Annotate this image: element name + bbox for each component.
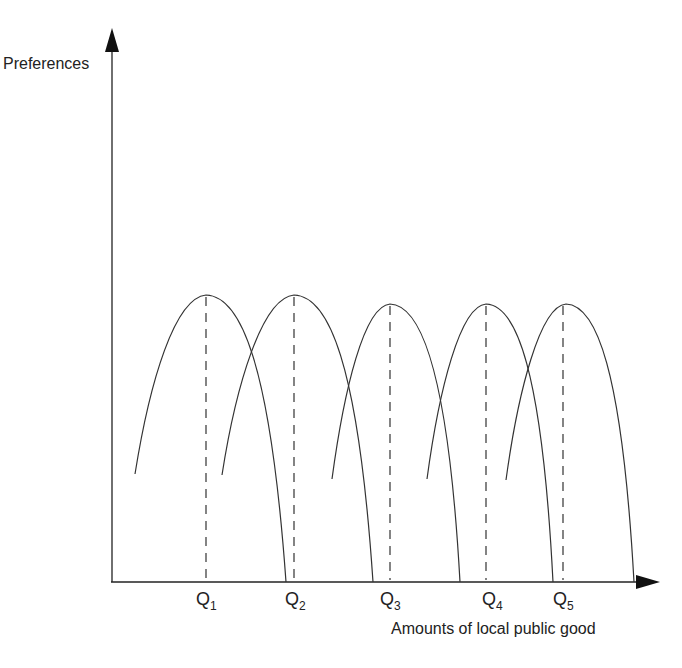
- x-axis-arrowhead: [636, 575, 660, 589]
- tick-label-q3: Q3: [380, 589, 401, 613]
- tick-sub: 2: [299, 599, 306, 613]
- tick-main: Q: [380, 589, 394, 609]
- tick-label-q2: Q2: [285, 589, 306, 613]
- y-axis-label: Preferences: [3, 55, 89, 73]
- preference-curve-4: [427, 304, 553, 582]
- diagram-canvas: [0, 0, 682, 668]
- tick-label-q5: Q5: [553, 589, 574, 613]
- preference-curve-2: [222, 295, 373, 582]
- preference-curve-5: [506, 304, 634, 582]
- preference-curve-3: [332, 304, 460, 582]
- tick-sub: 1: [210, 599, 217, 613]
- tick-sub: 3: [394, 599, 401, 613]
- preference-curve-1: [135, 295, 286, 582]
- tick-label-q4: Q4: [482, 589, 503, 613]
- tick-sub: 5: [567, 599, 574, 613]
- tick-main: Q: [196, 589, 210, 609]
- tick-main: Q: [553, 589, 567, 609]
- x-axis-label: Amounts of local public good: [391, 620, 596, 638]
- tick-sub: 4: [496, 599, 503, 613]
- tick-main: Q: [482, 589, 496, 609]
- tick-label-q1: Q1: [196, 589, 217, 613]
- y-axis-arrowhead: [105, 28, 119, 52]
- tick-main: Q: [285, 589, 299, 609]
